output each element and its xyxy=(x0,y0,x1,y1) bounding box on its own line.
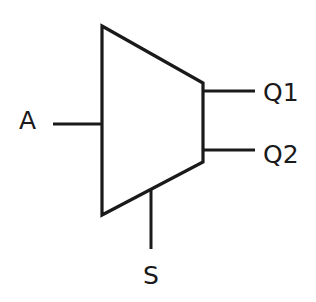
demux-diagram: A Q1 Q2 S xyxy=(0,0,316,302)
output-label-q1: Q1 xyxy=(263,78,299,107)
select-label-s: S xyxy=(143,261,159,290)
input-label-a: A xyxy=(19,106,36,135)
demux-body xyxy=(102,26,203,215)
output-label-q2: Q2 xyxy=(263,140,299,169)
